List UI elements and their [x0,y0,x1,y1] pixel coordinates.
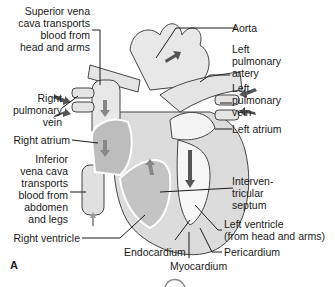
label-left-pulmonary-artery: Left pulmonary artery [232,43,281,79]
label-endocardium: Endocardium [124,246,186,258]
label-left-atrium: Left atrium [232,123,282,135]
label-myocardium: Myocardium [170,260,227,272]
label-superior-vena-cava: Superior vena cava transports blood from… [12,5,90,53]
label-right-atrium: Right atrium [10,134,70,146]
label-left-pulmonary-vein: Left pulmonary vein [232,82,281,118]
panel-label: A [10,259,18,271]
label-right-ventricle: Right ventricle [10,232,80,244]
label-interventricular-septum: Interven- tricular septum [232,175,273,211]
right-pulmonary-vein-2 [72,102,94,112]
right-pulmonary-vein-1 [72,88,94,98]
label-right-pulmonary-vein: Right pulmonary vein [10,92,62,128]
label-aorta: Aorta [232,22,257,34]
next-figure-partial [165,279,185,287]
label-pericardium: Pericardium [224,246,280,258]
label-left-ventricle: Left ventricle (from head and arms) [224,218,325,242]
label-inferior-vena-cava: Inferior vena cava transports blood from… [10,153,68,225]
right-atrium-chamber [92,120,132,175]
